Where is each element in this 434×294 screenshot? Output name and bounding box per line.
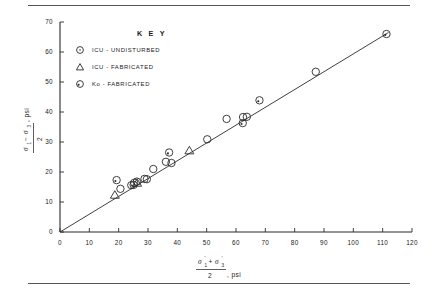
- x-tick-label: 90: [320, 239, 328, 246]
- data-point-circle: [113, 176, 120, 183]
- y-tick-label: 20: [45, 168, 53, 175]
- x-tick-label: 110: [377, 239, 388, 246]
- legend-title: K E Y: [137, 29, 167, 38]
- legend-label-icu-undisturbed: ICU - UNDISTURBED: [92, 47, 160, 53]
- x-axis-ticks: [60, 228, 412, 232]
- data-point-circle: [150, 165, 157, 172]
- data-point-center-dot: [384, 34, 386, 36]
- x-tick-label: 50: [203, 239, 211, 246]
- data-point-circle: [204, 136, 211, 143]
- y-tick-label: 40: [45, 108, 53, 115]
- x-title-sigma-3: σ: [215, 258, 219, 266]
- triangle-open-icon: [76, 64, 83, 70]
- data-point-circle: [312, 68, 319, 75]
- data-point-center-dot: [114, 180, 116, 182]
- legend-entry-icu-fabricated: ICU - FABRICATED: [76, 64, 153, 71]
- data-point-center-dot: [131, 185, 133, 187]
- y-axis-ticks: [60, 22, 64, 232]
- y-title-minus: −: [22, 137, 29, 141]
- x-tick-label: 10: [85, 239, 93, 246]
- x-tick-label: 70: [261, 239, 269, 246]
- x-title-plus: +: [209, 258, 213, 265]
- data-point-center-dot: [257, 100, 259, 102]
- x-tick-label: 20: [115, 239, 123, 246]
- x-tick-label: 80: [291, 239, 299, 246]
- x-tick-label: 100: [347, 239, 359, 246]
- data-point-circle: [223, 115, 230, 122]
- x-axis-tick-labels: 0102030405060708090100110120: [58, 239, 418, 246]
- figure-container: 0102030405060708090100110120 01020304050…: [0, 0, 434, 294]
- y-tick-label: 10: [45, 198, 53, 205]
- y-title-sigma-3-sub: 3: [27, 125, 32, 128]
- y-axis-tick-labels: 010203040506070: [45, 18, 53, 235]
- data-point-circle: [256, 97, 263, 104]
- x-title-sigma-1: σ: [198, 258, 202, 266]
- data-point-circle: [165, 149, 172, 156]
- y-title-sigma-1: σ: [22, 147, 30, 151]
- legend: K E Y ICU - UNDISTURBED ICU - FABRICATED…: [76, 29, 166, 87]
- scatter-plot: 0102030405060708090100110120 01020304050…: [0, 0, 434, 294]
- data-point-center-dot: [167, 152, 169, 154]
- x-title-sigma-3-sub: 3: [222, 263, 225, 268]
- x-title-sigma-1-prime: ': [205, 256, 206, 261]
- axes-group: [60, 22, 412, 232]
- x-tick-label: 40: [173, 239, 181, 246]
- circle-dot-icon: [77, 81, 84, 88]
- fit-line: [60, 33, 389, 233]
- legend-entry-icu-undisturbed: ICU - UNDISTURBED: [77, 47, 161, 54]
- series-ko-fabricated: [113, 30, 390, 188]
- y-axis-title: σ 1 − σ 3 2 , psi: [22, 108, 43, 153]
- circle-open-center-icon: [79, 49, 81, 51]
- y-tick-label: 30: [45, 138, 53, 145]
- circle-dot-center-icon: [78, 84, 80, 86]
- y-tick-label: 50: [45, 78, 53, 85]
- x-axis-title: σ ' 1 + σ ' 3 2 , psi: [196, 256, 241, 279]
- x-tick-label: 120: [406, 239, 418, 246]
- x-title-denominator: 2: [208, 272, 212, 279]
- legend-entry-ko-fabricated: Ko - FABRICATED: [77, 81, 150, 88]
- y-title-denominator: 2: [36, 137, 43, 141]
- legend-label-ko-fabricated: Ko - FABRICATED: [92, 81, 150, 87]
- data-point-center-dot: [240, 123, 242, 125]
- x-tick-label: 0: [58, 239, 62, 246]
- x-title-sigma-3-prime: ': [222, 256, 223, 261]
- x-title-sigma-1-sub: 1: [205, 263, 208, 268]
- data-point-triangle: [185, 146, 194, 154]
- x-tick-label: 30: [144, 239, 152, 246]
- y-tick-label: 0: [49, 228, 53, 235]
- y-tick-label: 70: [45, 18, 53, 25]
- y-title-units: , psi: [23, 108, 31, 122]
- x-title-units: , psi: [227, 271, 241, 279]
- y-tick-label: 60: [45, 48, 53, 55]
- legend-label-icu-fabricated: ICU - FABRICATED: [92, 64, 154, 70]
- y-title-sigma-3: σ: [22, 130, 30, 134]
- data-point-circle: [117, 185, 124, 192]
- x-tick-label: 60: [232, 239, 240, 246]
